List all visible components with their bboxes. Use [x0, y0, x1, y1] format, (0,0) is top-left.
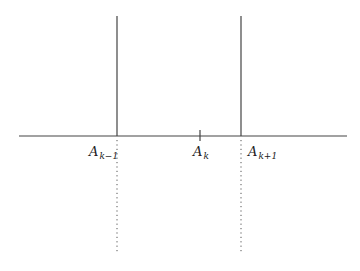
- label-a-k-plus-1-base: A: [248, 144, 257, 159]
- label-a-k-minus-1-subscript: k−1: [99, 151, 118, 161]
- label-a-k-plus-1: Ak+1: [248, 145, 277, 158]
- label-a-k-minus-1-base: A: [89, 144, 98, 159]
- label-a-k-subscript: k: [203, 151, 208, 161]
- label-a-k: Ak: [193, 145, 209, 158]
- label-a-k-base: A: [193, 144, 202, 159]
- label-a-k-plus-1-subscript: k+1: [258, 151, 277, 161]
- diagram-canvas: [0, 0, 360, 271]
- label-a-k-minus-1: Ak−1: [89, 145, 118, 158]
